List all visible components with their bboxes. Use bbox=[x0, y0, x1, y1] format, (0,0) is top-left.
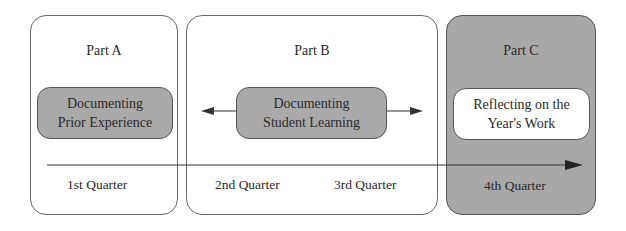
left-arrow-icon bbox=[201, 107, 236, 115]
arrows-layer bbox=[0, 0, 626, 231]
right-arrow-icon bbox=[387, 107, 423, 115]
quarter-2-label: 2nd Quarter bbox=[215, 177, 280, 193]
quarter-1-label: 1st Quarter bbox=[67, 177, 127, 193]
quarter-4-label: 4th Quarter bbox=[484, 178, 546, 194]
quarter-3-label: 3rd Quarter bbox=[334, 177, 397, 193]
timeline-arrow-icon bbox=[47, 160, 583, 170]
